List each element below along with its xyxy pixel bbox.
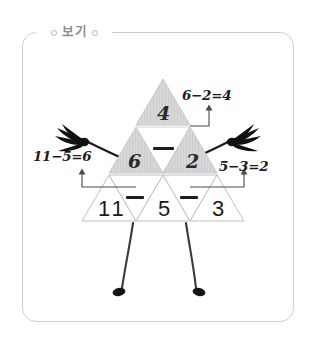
circle-dot-icon-right <box>92 30 98 36</box>
annotation-top-right: 6−2=4 <box>182 89 231 103</box>
cell-value-6: 6 <box>128 152 141 171</box>
worksheet-page: 보기 <box>0 0 316 350</box>
cell-value-5: 5 <box>158 198 170 220</box>
operator-minus-middle <box>153 147 174 150</box>
cell-value-4: 4 <box>157 104 170 123</box>
circle-dot-icon-left <box>51 30 57 36</box>
cell-value-3: 3 <box>212 198 224 220</box>
annotation-right: 5−3=2 <box>219 160 268 174</box>
legend-label: 보기 <box>62 26 87 39</box>
legend-header: 보기 <box>50 24 99 41</box>
cell-value-11: 11 <box>98 198 127 220</box>
operator-minus-bottom-left <box>126 196 144 199</box>
operator-minus-bottom-right <box>180 196 198 199</box>
annotation-left: 11−5=6 <box>33 150 91 164</box>
example-box <box>22 32 294 322</box>
cell-value-2: 2 <box>186 152 199 171</box>
